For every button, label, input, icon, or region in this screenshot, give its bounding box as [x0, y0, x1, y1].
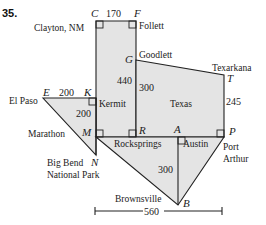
point-M: M: [81, 126, 92, 138]
point-P: P: [228, 125, 236, 137]
city-clayton: Clayton, NM: [34, 23, 85, 33]
point-T: T: [227, 72, 234, 84]
city-marathon: Marathon: [28, 129, 65, 139]
region-texas: Texas: [170, 99, 192, 109]
point-F: F: [133, 7, 141, 19]
city-big-bend-line1: Big Bend: [47, 158, 83, 168]
point-R: R: [138, 124, 146, 136]
measure-560: 560: [144, 206, 159, 217]
city-texarkana: Texarkana: [212, 63, 252, 73]
point-E: E: [42, 86, 50, 98]
measure-EK: 200: [59, 87, 74, 98]
problem-number: 35.: [2, 7, 17, 19]
city-rocksprings: Rocksprings: [114, 139, 162, 149]
point-K: K: [83, 86, 92, 98]
city-goodlett: Goodlett: [139, 50, 173, 60]
city-follett: Follett: [139, 21, 164, 31]
point-C: C: [91, 7, 99, 19]
city-brownsville: Brownsville: [115, 194, 161, 204]
measure-TP: 245: [226, 96, 241, 107]
measure-CF: 170: [106, 8, 121, 19]
point-B: B: [183, 197, 190, 209]
point-A: A: [173, 123, 181, 135]
measure-KM: 200: [76, 108, 91, 119]
point-G: G: [125, 53, 133, 65]
texas-area-diagram: 35. C F G T E K M R A P N B Clayton, NM …: [0, 0, 266, 225]
measure-300-GR: 300: [139, 82, 154, 93]
measure-AB: 300: [158, 164, 173, 175]
city-austin: Austin: [183, 139, 209, 149]
city-el-paso: El Paso: [9, 96, 38, 106]
city-port-arthur-line1: Port: [223, 142, 239, 152]
city-big-bend-line2: National Park: [47, 170, 100, 180]
measure-440: 440: [117, 75, 132, 86]
city-kermit: Kermit: [99, 99, 126, 109]
point-N: N: [90, 156, 99, 168]
city-port-arthur-line2: Arthur: [223, 154, 249, 164]
